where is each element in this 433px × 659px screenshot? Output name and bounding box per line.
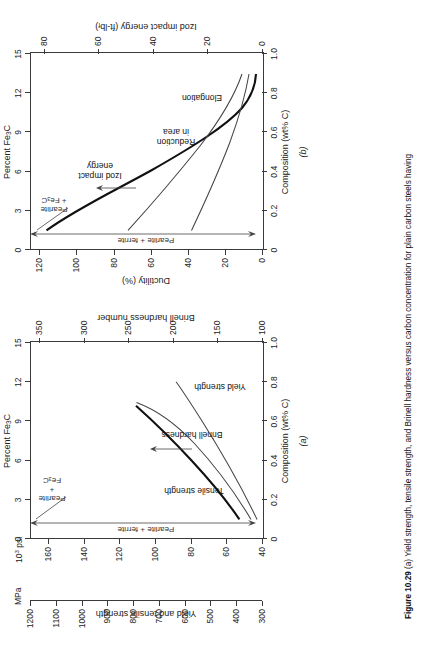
mpa-tick: [185, 601, 186, 606]
mpa-tick: [236, 601, 237, 606]
chart-panel-b: 020406080100120 020406080 00.20.40.60.81…: [24, 44, 314, 294]
mpa-tick: [133, 601, 134, 606]
percent-fe3c-a-tick-label: 15: [13, 338, 23, 348]
curve-label-yield-strength: Yield strength: [194, 382, 246, 392]
mpa-tick: [56, 601, 57, 606]
mpa-tick: [159, 601, 160, 606]
mpa-tick-label: 1000: [77, 609, 87, 628]
axis-title-percent-fe3c-a: Percent Fe3C: [2, 414, 12, 468]
percent-fe3c-a-tick-label: 3: [13, 497, 23, 502]
mpa-tick-label: 1200: [25, 609, 35, 628]
mpa-tick-label: 300: [257, 609, 267, 623]
percent-fe3c-b-tick-label: 12: [13, 88, 23, 98]
percent-fe3c-a-tick-label: 0: [13, 537, 23, 542]
percent-fe3c-b-tick-label: 6: [13, 169, 23, 174]
figure-number: Figure 10.29: [404, 571, 413, 619]
figure-caption-text: (a) Yield strength, tensile strength, an…: [404, 154, 413, 569]
region-label-pearlite-fe3c-b: Pearlite+ Fe3C: [40, 195, 67, 214]
percent-fe3c-a-tick-label: 9: [13, 419, 23, 424]
axis-title-percent-fe3c-b: Percent Fe3C: [2, 125, 12, 179]
curve-label-izod-impact-energy: Izod impactenergy: [78, 160, 121, 180]
percent-fe3c-b-tick-label: 3: [13, 208, 23, 213]
percent-fe3c-a-tick-label: 12: [13, 377, 23, 387]
percent-fe3c-b-tick-label: 0: [13, 248, 23, 253]
curve-label-elongation: Elongation: [182, 93, 222, 103]
mpa-tick-label: 500: [205, 609, 215, 623]
mpa-tick-label: 1100: [51, 609, 61, 628]
mpa-tick: [30, 601, 31, 606]
figure-caption: Figure 10.29 (a) Yield strength, tensile…: [404, 9, 414, 619]
region-label-pearlite-ferrite-a: Pearlite + ferrite: [118, 525, 175, 534]
curve-label-tensile-strength: Tensile strength: [164, 486, 224, 496]
axis-title-brinell: Brinell hardness number: [97, 313, 195, 323]
region-label-pearlite-fe3c-a: Pearlite+Fe3C: [38, 475, 65, 503]
region-label-pearlite-ferrite-b: Pearlite + ferrite: [118, 236, 175, 245]
mpa-tick: [107, 601, 108, 606]
curve-label-brinell-hardness: Brinell hardness: [162, 430, 223, 440]
axis-title-yield-tensile: Yield and tensile strength: [96, 609, 197, 619]
percent-fe3c-a-tick-label: 6: [13, 458, 23, 463]
mpa-tick: [262, 601, 263, 606]
figure-page: MPa 300400500600700800900100011001200 10…: [0, 0, 433, 659]
percent-fe3c-b-tick-label: 9: [13, 130, 23, 135]
mpa-tick: [82, 601, 83, 606]
axis-title-izod: Izod impact energy (ft-lbf): [95, 22, 196, 32]
mpa-tick-label: 400: [231, 609, 241, 623]
percent-fe3c-b-tick-label: 15: [13, 49, 23, 59]
brinell-arrow: [150, 446, 192, 452]
curves-a: [24, 329, 314, 601]
chart-panel-a: MPa 300400500600700800900100011001200 10…: [24, 329, 314, 601]
curve-brinell-hardness: [137, 403, 252, 520]
axis-mpa-unit: MPa: [13, 588, 23, 605]
curves-b: [24, 44, 314, 294]
mpa-tick: [210, 601, 211, 606]
curve-label-reduction-in-area: Reductionin area: [157, 126, 195, 146]
curve-tensile-strength: [136, 406, 239, 520]
curve-izod-impact-energy: [47, 74, 257, 230]
rotated-page: MPa 300400500600700800900100011001200 10…: [0, 0, 433, 659]
curve-yield-strength: [176, 382, 257, 520]
